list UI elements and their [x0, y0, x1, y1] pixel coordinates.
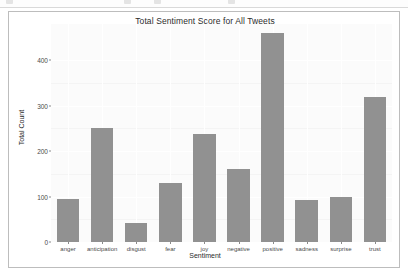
bar-fear[interactable]	[159, 183, 182, 242]
x-tick-mark	[136, 242, 137, 244]
x-tick-label-sadness: sadness	[296, 246, 318, 252]
grid-line-v	[136, 24, 137, 242]
y-tick-mark	[49, 60, 51, 61]
bar-trust[interactable]	[364, 97, 387, 242]
y-tick-label: 400	[37, 57, 48, 64]
x-tick-mark	[68, 242, 69, 244]
bar-negative[interactable]	[227, 169, 250, 242]
x-tick-mark	[204, 242, 205, 244]
y-axis-title: Total Count	[18, 98, 25, 158]
x-tick-mark	[375, 242, 376, 244]
chrome-icon-1	[6, 0, 13, 4]
y-tick-mark	[49, 151, 51, 152]
chart-figure-card: Total Sentiment Score for All Tweets Tot…	[8, 11, 400, 268]
bar-anticipation[interactable]	[91, 128, 114, 242]
y-tick-label: 0	[44, 239, 48, 246]
x-tick-label-disgust: disgust	[127, 246, 146, 252]
chrome-icon-4	[228, 0, 235, 4]
x-tick-label-fear: fear	[165, 246, 175, 252]
y-tick-label: 200	[37, 148, 48, 155]
y-tick-label: 100	[37, 193, 48, 200]
x-tick-mark	[102, 242, 103, 244]
bar-anger[interactable]	[57, 199, 80, 242]
x-tick-mark	[239, 242, 240, 244]
y-tick-mark	[49, 196, 51, 197]
x-tick-mark	[170, 242, 171, 244]
plot-panel: 0100200300400 angeranticipationdisgustfe…	[51, 24, 392, 242]
x-tick-label-negative: negative	[227, 246, 250, 252]
bar-surprise[interactable]	[330, 197, 353, 242]
x-tick-mark	[273, 242, 274, 244]
y-tick-mark	[49, 105, 51, 106]
x-tick-label-surprise: surprise	[330, 246, 351, 252]
y-tick-mark	[49, 242, 51, 243]
chrome-icon-2	[124, 0, 131, 4]
x-tick-mark	[307, 242, 308, 244]
x-tick-label-positive: positive	[262, 246, 282, 252]
x-tick-label-trust: trust	[369, 246, 381, 252]
chrome-icon-3	[154, 0, 161, 4]
bar-positive[interactable]	[261, 33, 284, 242]
x-axis-title: Sentiment	[9, 252, 401, 259]
x-tick-mark	[341, 242, 342, 244]
x-tick-label-anticipation: anticipation	[87, 246, 117, 252]
x-tick-label-anger: anger	[60, 246, 75, 252]
bar-disgust[interactable]	[125, 223, 148, 242]
app-chrome-strip	[0, 0, 408, 8]
x-tick-label-joy: joy	[201, 246, 209, 252]
bar-sadness[interactable]	[295, 200, 318, 242]
bar-joy[interactable]	[193, 134, 216, 242]
y-tick-label: 300	[37, 102, 48, 109]
